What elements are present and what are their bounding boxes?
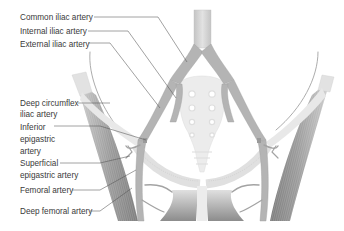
left-thigh-muscle	[72, 72, 140, 221]
inguinal-ligament-left	[136, 146, 200, 184]
label-deep-circumflex-iliac-artery-line2: iliac artery	[20, 110, 58, 119]
label-superficial-epigastric-artery-line2: epigastric artery	[20, 171, 79, 180]
left-external-iliac-artery	[138, 80, 178, 142]
label-femoral-artery: Femoral artery	[20, 186, 74, 195]
label-deep-circumflex-iliac-artery-line1: Deep circumflex	[20, 99, 79, 108]
label-inferior-epigastric-artery-line2: epigastric	[20, 135, 55, 144]
adductor-muscles	[160, 186, 244, 221]
sacrum	[179, 76, 224, 172]
labels: Common iliac artery Internal iliac arter…	[20, 13, 94, 216]
label-common-iliac-artery: Common iliac artery	[20, 13, 94, 22]
inguinal-ligament-right	[206, 146, 268, 184]
right-external-iliac-artery	[226, 80, 266, 142]
label-external-iliac-artery: External iliac artery	[20, 40, 91, 49]
aorta	[194, 10, 211, 48]
label-inferior-epigastric-artery-line3: artery	[20, 147, 42, 156]
pelvic-arteries-diagram: Common iliac artery Internal iliac arter…	[0, 0, 344, 231]
label-inferior-epigastric-artery-line1: Inferior	[20, 123, 46, 132]
label-deep-femoral-artery: Deep femoral artery	[20, 207, 93, 216]
label-superficial-epigastric-artery-line1: Superficial	[20, 159, 58, 168]
label-internal-iliac-artery: Internal iliac artery	[20, 27, 88, 36]
